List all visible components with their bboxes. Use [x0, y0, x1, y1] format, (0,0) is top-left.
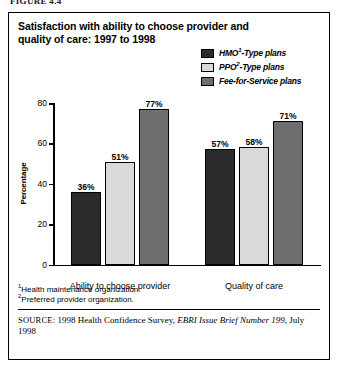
- y-axis-title: Percentage: [19, 154, 28, 214]
- y-tick-label: 80: [38, 98, 47, 108]
- chart-legend: HMO1-Type plans PPO2-Type plans Fee-for-…: [201, 47, 319, 89]
- legend-label-hmo: HMO1-Type plans: [219, 48, 286, 58]
- bar-value-label: 36%: [77, 182, 94, 192]
- source-publication: EBRI Issue Brief Number 199: [177, 315, 284, 325]
- footnotes: 1Health maintenance organization. 2Prefe…: [18, 285, 318, 305]
- source-kicker: SOURCE:: [18, 315, 55, 325]
- y-tick-mark: [49, 265, 54, 267]
- bar-value-label: 77%: [145, 99, 162, 109]
- legend-swatch-ppo: [201, 63, 214, 72]
- figure-box: Satisfaction with ability to choose prov…: [8, 12, 330, 360]
- y-tick-label: 40: [38, 179, 47, 189]
- legend-swatch-hmo: [201, 49, 214, 58]
- bar: 51%: [105, 162, 135, 265]
- bar-value-label: 71%: [279, 111, 296, 121]
- source-text-before: 1998 Health Confidence Survey,: [55, 315, 177, 325]
- legend-label-ffs: Fee-for-Service plans: [219, 76, 301, 86]
- footnote-2: 2Preferred provider organization.: [18, 295, 318, 305]
- bar: 36%: [71, 192, 101, 265]
- y-tick-label: 60: [38, 138, 47, 148]
- plot-area: Percentage 020406080 36%51%77%57%58%71% …: [9, 91, 329, 291]
- source-divider: [18, 309, 320, 310]
- bar: 57%: [205, 149, 235, 264]
- chart-axes: 020406080 36%51%77%57%58%71% Ability to …: [53, 103, 321, 266]
- legend-item-ppo: PPO2-Type plans: [201, 61, 319, 73]
- legend-label-ppo: PPO2-Type plans: [219, 62, 284, 72]
- legend-item-hmo: HMO1-Type plans: [201, 47, 319, 59]
- bar-value-label: 51%: [111, 152, 128, 162]
- bars-layer: 36%51%77%57%58%71%: [53, 103, 321, 265]
- figure-caption: FIGURE 4.4: [10, 0, 62, 6]
- chart-title: Satisfaction with ability to choose prov…: [18, 20, 262, 46]
- x-axis-line: [53, 265, 321, 267]
- bar-value-label: 57%: [211, 139, 228, 149]
- bar-value-label: 58%: [245, 137, 262, 147]
- legend-item-ffs: Fee-for-Service plans: [201, 75, 319, 87]
- bar: 77%: [139, 109, 169, 264]
- legend-swatch-ffs: [201, 77, 214, 86]
- footnote-1: 1Health maintenance organization.: [18, 285, 318, 295]
- source-note: SOURCE: 1998 Health Confidence Survey, E…: [18, 315, 318, 337]
- bar: 58%: [239, 147, 269, 264]
- y-tick-label: 20: [38, 219, 47, 229]
- bar: 71%: [273, 121, 303, 264]
- y-tick-label: 0: [42, 260, 47, 270]
